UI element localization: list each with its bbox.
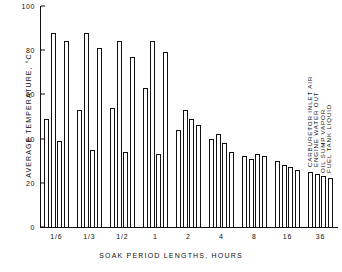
legend-label: FUEL TANK LIQUID xyxy=(325,104,332,173)
bar-chart: AVERAGE TEMPERATURE, °C 020406080100 1/6… xyxy=(0,0,342,272)
chart-legend: CARBURETOR INLET AIRENGINE WATER OUTOIL … xyxy=(0,0,342,272)
